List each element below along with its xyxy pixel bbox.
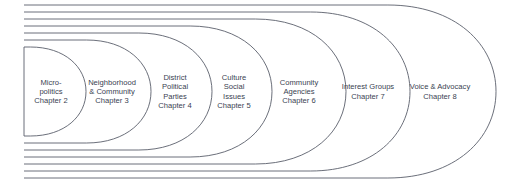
nested-shape-labels: Micro-politicsChapter 2Neighborhood& Com… (34, 73, 470, 110)
label-line: Micro- (40, 78, 62, 87)
label-line: Chapter 8 (423, 92, 456, 101)
label-line: Culture (222, 73, 246, 82)
label-line: Chapter 3 (95, 96, 128, 105)
label-line: District (163, 73, 187, 82)
label-chapter-3: Neighborhood& CommunityChapter 3 (88, 78, 136, 106)
label-chapter-6: CommunityAgenciesChapter 6 (280, 78, 319, 106)
label-line: Issues (223, 92, 245, 101)
diagram-canvas: Micro-politicsChapter 2Neighborhood& Com… (0, 0, 505, 183)
label-chapter-5: CultureSocialIssuesChapter 5 (217, 73, 250, 110)
label-line: Chapter 4 (158, 101, 191, 110)
label-chapter-4: DistrictPoliticalPartiesChapter 4 (158, 73, 191, 110)
label-chapter-7: Interest GroupsChapter 7 (342, 82, 395, 100)
label-line: Community (280, 78, 319, 87)
label-line: Interest Groups (342, 82, 395, 91)
label-line: politics (39, 87, 62, 96)
label-chapter-2: Micro-politicsChapter 2 (34, 78, 67, 106)
label-line: Chapter 7 (351, 92, 384, 101)
nested-stadium-diagram: Micro-politicsChapter 2Neighborhood& Com… (0, 0, 505, 183)
label-line: Voice & Advocacy (410, 82, 471, 91)
label-line: Political (162, 82, 188, 91)
label-line: & Community (89, 87, 135, 96)
label-line: Social (224, 82, 245, 91)
label-line: Neighborhood (88, 78, 136, 87)
label-line: Parties (163, 92, 187, 101)
label-line: Agencies (283, 87, 314, 96)
label-line: Chapter 2 (34, 96, 67, 105)
label-chapter-8: Voice & AdvocacyChapter 8 (410, 82, 471, 100)
label-line: Chapter 5 (217, 101, 250, 110)
label-line: Chapter 6 (282, 96, 315, 105)
